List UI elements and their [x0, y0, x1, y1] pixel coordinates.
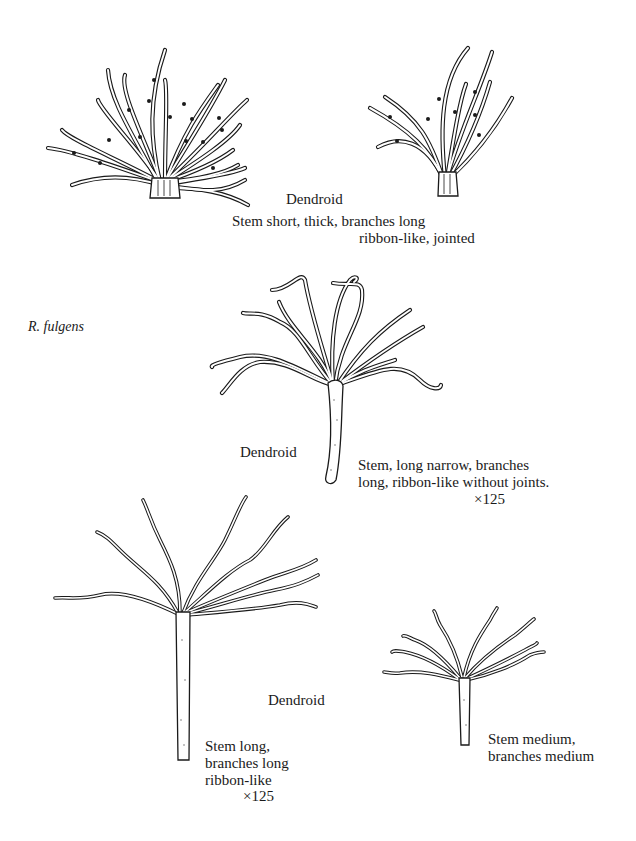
- specimen-b-description-line-2: long, ribbon-like without joints.: [358, 473, 549, 491]
- specimen-a-description-line-2: ribbon-like, jointed: [359, 229, 475, 247]
- specimen-d-description-line-1: Stem medium,: [488, 730, 576, 748]
- specimen-c-description-line-2: branches long: [205, 754, 289, 772]
- species-label: R. fulgens: [28, 318, 84, 336]
- specimen-a-description-line-1: Stem short, thick, branches long: [232, 212, 425, 230]
- specimen-a-drawing: [48, 50, 248, 205]
- specimen-d-drawing: [384, 608, 544, 745]
- specimen-drawings: [0, 0, 636, 841]
- specimen-d-description-line-2: branches medium: [488, 747, 594, 765]
- specimen-c-drawing: [55, 497, 318, 760]
- specimen-a2-drawing: [370, 48, 512, 196]
- specimen-c-form-label: Dendroid: [268, 691, 325, 709]
- specimen-b-description-line-1: Stem, long narrow, branches: [358, 456, 529, 474]
- specimen-b-magnification: ×125: [474, 490, 505, 508]
- specimen-b-form-label: Dendroid: [240, 443, 297, 461]
- specimen-c-description-line-1: Stem long,: [205, 737, 270, 755]
- specimen-a-form-label: Dendroid: [286, 190, 343, 208]
- specimen-c-magnification: ×125: [243, 787, 274, 805]
